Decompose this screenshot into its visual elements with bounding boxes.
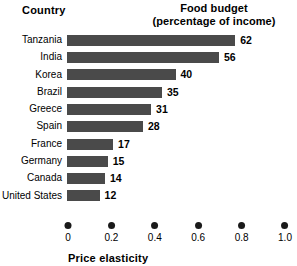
axis-tick-dot-icon — [195, 222, 202, 229]
bar-value-label: 12 — [105, 190, 117, 201]
bar-row-country-label: France — [0, 138, 62, 151]
x-axis-tick-label: 0.2 — [104, 232, 118, 243]
bar-row: Spain28 — [0, 120, 297, 137]
food-budget-title-line2: (percentage of income) — [132, 15, 296, 28]
bar-container: 40 — [67, 69, 192, 82]
bar-container: 14 — [67, 172, 122, 185]
bar-row-country-label: Brazil — [0, 86, 62, 99]
bar-value-label: 62 — [240, 35, 252, 46]
bar-row-country-label: India — [0, 51, 62, 64]
x-axis-tick-label: 0.8 — [235, 232, 249, 243]
bar — [67, 35, 235, 46]
column-header-country: Country — [22, 4, 66, 16]
bar-row: Tanzania62 — [0, 34, 297, 51]
food-budget-title-line1: Food budget — [180, 2, 248, 14]
bar-row: Canada14 — [0, 172, 297, 189]
x-axis-tick-label: 0.4 — [148, 232, 162, 243]
x-axis-tick: 1.0 — [278, 222, 292, 243]
x-axis-tick: 0.8 — [235, 222, 249, 243]
bar — [67, 87, 162, 98]
bar-value-label: 35 — [167, 87, 179, 98]
bar-row: Germany15 — [0, 155, 297, 172]
x-axis: 00.20.40.60.81.0 Price elasticity — [0, 222, 297, 266]
bar-row-country-label: Tanzania — [0, 34, 62, 47]
bar-container: 28 — [67, 120, 160, 133]
bar — [67, 121, 143, 132]
axis-tick-dot-icon — [108, 222, 115, 229]
bar-row: India56 — [0, 51, 297, 68]
bar-container: 17 — [67, 138, 130, 151]
bar-value-label: 56 — [224, 52, 236, 63]
x-axis-title: Price elasticity — [68, 252, 148, 264]
bar-container: 12 — [67, 190, 116, 203]
bar-row: Korea40 — [0, 69, 297, 86]
bar-row-country-label: United States — [0, 190, 62, 203]
bar-row-country-label: Spain — [0, 120, 62, 133]
bar-value-label: 14 — [110, 173, 122, 184]
bar — [67, 69, 176, 80]
bar — [67, 190, 100, 201]
x-axis-tick: 0.4 — [148, 222, 162, 243]
bar-row: France17 — [0, 138, 297, 155]
bar-container: 35 — [67, 86, 179, 99]
bar-container: 31 — [67, 103, 168, 116]
bar-container: 62 — [67, 34, 252, 47]
bar — [67, 139, 113, 150]
bar-row-country-label: Germany — [0, 155, 62, 168]
bar — [67, 173, 105, 184]
bar — [67, 104, 151, 115]
bar-row-country-label: Korea — [0, 69, 62, 82]
axis-tick-dot-icon — [282, 222, 289, 229]
axis-tick-dot-icon — [65, 222, 72, 229]
bar-row: Brazil35 — [0, 86, 297, 103]
column-header-food-budget: Food budget (percentage of income) — [132, 2, 296, 28]
bar-row: Greece31 — [0, 103, 297, 120]
bar-value-label: 28 — [148, 121, 160, 132]
bar-value-label: 31 — [156, 104, 168, 115]
bar-row-country-label: Canada — [0, 172, 62, 185]
bar-container: 56 — [67, 51, 236, 64]
x-axis-tick-label: 0.6 — [191, 232, 205, 243]
bar-value-label: 40 — [181, 69, 193, 80]
bar-row: United States12 — [0, 190, 297, 207]
x-axis-tick: 0.6 — [191, 222, 205, 243]
bar-value-label: 17 — [118, 139, 130, 150]
x-axis-tick: 0 — [65, 222, 72, 243]
axis-tick-dot-icon — [238, 222, 245, 229]
food-budget-price-elasticity-chart: Country Food budget (percentage of incom… — [0, 0, 297, 266]
x-axis-tick-label: 1.0 — [278, 232, 292, 243]
bar-value-label: 15 — [113, 156, 125, 167]
bar-container: 15 — [67, 155, 124, 168]
bar-rows: Tanzania62India56Korea40Brazil35Greece31… — [0, 34, 297, 207]
x-axis-tick-label: 0 — [65, 232, 72, 243]
bar — [67, 52, 219, 63]
bar — [67, 156, 108, 167]
bar-row-country-label: Greece — [0, 103, 62, 116]
x-axis-tick: 0.2 — [104, 222, 118, 243]
axis-tick-dot-icon — [151, 222, 158, 229]
